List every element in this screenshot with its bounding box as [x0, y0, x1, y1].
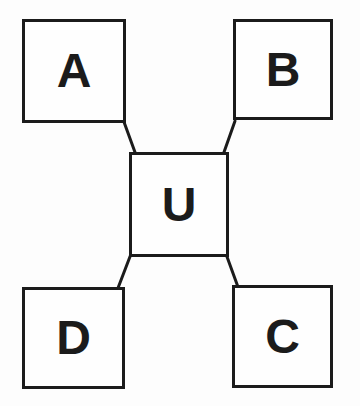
node-c-label: C: [265, 313, 300, 361]
edge-u-c: [226, 254, 238, 287]
edge-u-a: [124, 122, 136, 155]
edge-u-b: [223, 121, 235, 155]
node-b-box: B: [233, 19, 333, 120]
node-a-box: A: [22, 19, 126, 123]
edge-u-d: [118, 254, 131, 288]
node-d-label: D: [56, 314, 91, 362]
node-d-box: D: [22, 287, 125, 389]
node-u-box: U: [129, 152, 229, 257]
diagram-canvas: A B U D C: [0, 0, 360, 406]
node-a-label: A: [57, 47, 92, 95]
node-c-box: C: [232, 285, 333, 388]
node-b-label: B: [266, 46, 301, 94]
node-u-label: U: [162, 181, 197, 229]
